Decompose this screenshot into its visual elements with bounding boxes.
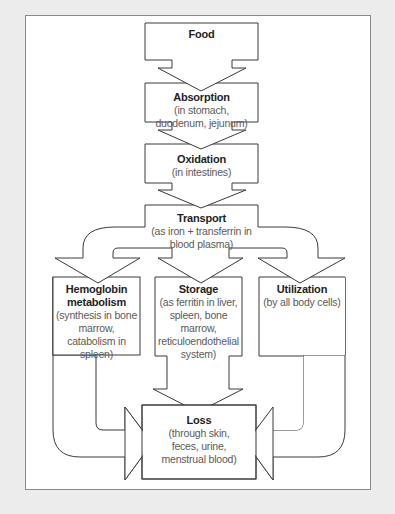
node-storage-desc: (as ferritin in liver, spleen, bone marr… xyxy=(157,296,240,361)
node-food-title: Food xyxy=(145,28,258,41)
node-hemoglobin-title: Hemoglobin metabolism xyxy=(55,283,138,309)
node-absorption: Absorption (in stomach, duodenum, jejunu… xyxy=(148,91,255,130)
node-loss-desc: (through skin, feces, urine, menstrual b… xyxy=(158,427,240,466)
node-hemoglobin: Hemoglobin metabolism (synthesis in bone… xyxy=(55,283,138,361)
node-utilization-title: Utilization xyxy=(259,283,345,296)
node-food: Food xyxy=(145,28,258,41)
node-transport-title: Transport xyxy=(150,212,253,225)
node-loss: Loss (through skin, feces, urine, menstr… xyxy=(158,414,240,466)
node-oxidation-title: Oxidation xyxy=(148,153,255,166)
node-oxidation-desc: (in intestines) xyxy=(148,166,255,179)
node-absorption-desc: (in stomach, duodenum, jejunum) xyxy=(148,104,255,130)
node-loss-title: Loss xyxy=(158,414,240,427)
node-transport-desc: (as iron + transferrin in blood plasma) xyxy=(150,225,253,251)
node-oxidation: Oxidation (in intestines) xyxy=(148,153,255,179)
node-hemoglobin-desc: (synthesis in bone marrow, catabolism in… xyxy=(55,309,138,361)
node-absorption-title: Absorption xyxy=(148,91,255,104)
node-storage: Storage (as ferritin in liver, spleen, b… xyxy=(157,283,240,361)
node-utilization-desc: (by all body cells) xyxy=(259,296,345,309)
node-storage-title: Storage xyxy=(157,283,240,296)
node-utilization: Utilization (by all body cells) xyxy=(259,283,345,309)
node-transport: Transport (as iron + transferrin in bloo… xyxy=(150,212,253,251)
